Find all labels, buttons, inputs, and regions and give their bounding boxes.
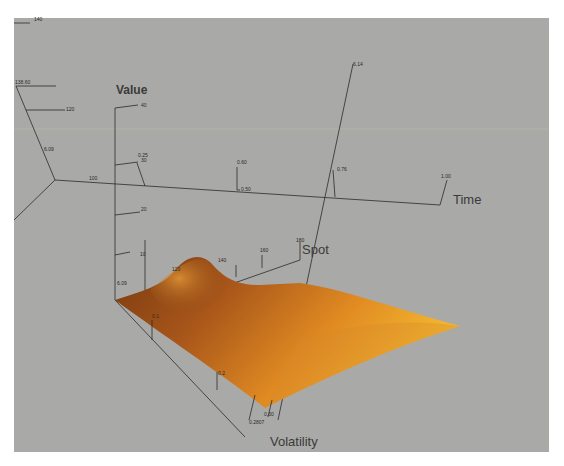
tick-label: 0.50 <box>241 186 251 192</box>
tick-label: 138.60 <box>15 79 31 85</box>
tick-label: 160 <box>260 247 269 253</box>
tick-label: 0.2 <box>218 370 225 376</box>
volatility-axis-title: Volatility <box>270 434 318 449</box>
tick-label: 0.76 <box>337 166 347 172</box>
time-axis-title: Time <box>453 192 481 207</box>
surface-plot-3d[interactable]: 140 138.60 120 6.09 100 40 0.25 30 20 10… <box>0 0 564 466</box>
tick-label: 100 <box>89 175 98 181</box>
tick-label: 0.60 <box>237 159 247 165</box>
tick-label: 20 <box>141 206 147 212</box>
tick-label: 1.00 <box>441 173 451 179</box>
tick-label: 0.1 <box>152 313 159 319</box>
tick-label: 140 <box>218 257 227 263</box>
tick-label: 0.2807 <box>249 419 265 425</box>
tick-label: 120 <box>66 106 75 112</box>
tick-label: 6.09 <box>44 146 54 152</box>
tick-label: 10 <box>140 251 146 257</box>
tick-label: 140 <box>34 16 43 22</box>
back-axes <box>14 23 447 220</box>
tick-label: 30 <box>141 157 147 163</box>
tick-label: 6.09 <box>117 280 127 286</box>
spot-axis-title: Spot <box>302 242 329 257</box>
tick-label: 6.14 <box>353 61 363 67</box>
value-axis <box>115 105 145 300</box>
tick-label: 120 <box>172 266 181 272</box>
tick-label: 0.30 <box>264 411 274 417</box>
value-surface[interactable] <box>115 257 460 408</box>
tick-label: 40 <box>141 102 147 108</box>
value-axis-title: Value <box>116 83 148 97</box>
